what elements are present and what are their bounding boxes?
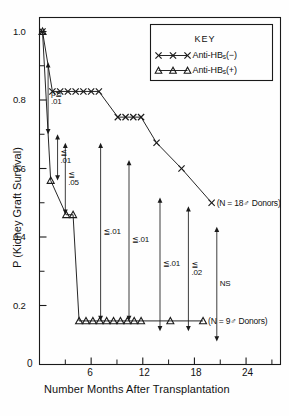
annotation-le-05: ≦.05 — [68, 171, 79, 187]
legend-entry-negative: Anti-HBs(−) — [193, 51, 237, 61]
y-axis-title: P (Kidney Graft Survival) — [11, 147, 23, 268]
y-tick-1.0: 1.0 — [13, 27, 26, 37]
x-tick-0: 0 — [27, 359, 33, 369]
annotation-le-01-d: ≦.01 — [163, 260, 180, 268]
y-tick-0.2: 0.2 — [13, 301, 26, 311]
x-tick-24: 24 — [242, 368, 253, 378]
series-anti-hbs-positive — [39, 28, 207, 324]
annotation-le-01-b: ≦.01 — [104, 228, 121, 236]
x-tick-6: 6 — [87, 368, 93, 378]
annotation-ns: NS — [220, 280, 231, 288]
series-label-positive: (N = 9♂ Donors) — [208, 317, 267, 326]
significance-annotation-arrows — [46, 62, 220, 341]
legend-markers — [155, 52, 191, 73]
figure-container: 0.20.40.60.81.0 06121824 Number Months A… — [0, 0, 289, 416]
annotation-le-01-a: ≦.01 — [61, 149, 72, 165]
x-tick-18: 18 — [190, 368, 201, 378]
kidney-graft-survival-chart — [0, 0, 289, 416]
annotation-p-le-01: p≦.01 — [51, 90, 62, 106]
series-label-negative: (N = 18♂ Donors) — [217, 199, 281, 208]
annotation-le-02: ≦.02 — [191, 261, 202, 277]
y-tick-0.8: 0.8 — [13, 95, 26, 105]
x-axis-title: Number Months After Transplantation — [44, 384, 230, 395]
legend-entry-positive: Anti-HBs(+) — [193, 66, 237, 76]
x-tick-12: 12 — [139, 368, 150, 378]
legend-title: KEY — [195, 35, 216, 44]
annotation-le-01-c: ≦.01 — [132, 236, 149, 244]
